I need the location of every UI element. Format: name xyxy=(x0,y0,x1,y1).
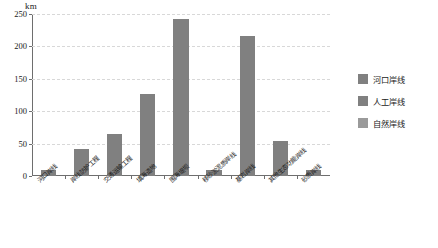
x-axis-labels: 河口岸线岸线防护工程交通运输工程填海造地围海堤坝移砂淤泥质岸线基岩岸线其他生态功… xyxy=(32,178,330,248)
bar xyxy=(240,36,255,176)
y-axis-tick-label: 250 xyxy=(14,9,27,19)
legend-label: 河口岸线 xyxy=(373,73,405,85)
chart-legend: 河口岸线人工岸线自然岸线 xyxy=(358,68,436,134)
legend-label: 人工岸线 xyxy=(373,95,405,107)
y-axis-tick xyxy=(29,14,32,15)
y-axis-tick-label: 200 xyxy=(14,41,27,51)
legend-label: 自然岸线 xyxy=(373,117,405,129)
legend-item: 河口岸线 xyxy=(358,68,436,90)
legend-swatch xyxy=(358,118,368,128)
y-axis-tick xyxy=(29,79,32,80)
y-axis-tick-label: 150 xyxy=(14,74,27,84)
legend-item: 人工岸线 xyxy=(358,90,436,112)
gridline xyxy=(32,14,330,15)
y-axis-tick-label: 100 xyxy=(14,106,27,116)
y-axis-tick-label: 0 xyxy=(23,171,27,181)
y-axis-tick xyxy=(29,46,32,47)
plot-area: 050100150200250 xyxy=(32,14,330,176)
bar xyxy=(173,19,188,176)
y-axis-tick-label: 50 xyxy=(19,139,28,149)
y-axis-tick xyxy=(29,176,32,177)
bar-chart: km 050100150200250 河口岸线岸线防护工程交通运输工程填海造地围… xyxy=(0,0,438,248)
y-axis-line xyxy=(32,14,33,176)
legend-item: 自然岸线 xyxy=(358,112,436,134)
legend-swatch xyxy=(358,74,368,84)
legend-swatch xyxy=(358,96,368,106)
y-axis-tick xyxy=(29,111,32,112)
y-axis-tick xyxy=(29,144,32,145)
